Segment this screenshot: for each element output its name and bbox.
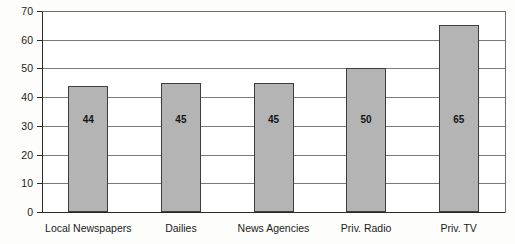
bar-value-label: 45 — [254, 115, 294, 125]
bar-value-label: 65 — [439, 115, 479, 125]
y-axis-tick-label: 10 — [0, 178, 33, 189]
x-axis-category-label: Priv. Radio — [320, 223, 413, 234]
gridline — [43, 68, 506, 69]
bar — [254, 83, 294, 212]
x-axis-category-label: News Agencies — [227, 223, 320, 234]
y-axis-tick-label: 70 — [0, 6, 33, 17]
bar-value-label: 45 — [161, 115, 201, 125]
bar — [68, 86, 108, 212]
gridline — [43, 11, 506, 12]
y-axis-tick-label: 30 — [0, 121, 33, 132]
y-axis-tick-label: 60 — [0, 35, 33, 46]
y-axis-tick-label: 40 — [0, 92, 33, 103]
y-axis-tick-label: 20 — [0, 150, 33, 161]
gridline — [43, 40, 506, 41]
y-axis-tick-label: 0 — [0, 207, 33, 218]
bar — [161, 83, 201, 212]
bar-chart-screenshot: 010203040506070 4445455065 Local Newspap… — [0, 0, 515, 244]
x-axis-category-label: Local Newspapers — [42, 223, 135, 234]
bar-value-label: 44 — [68, 115, 108, 125]
bar — [346, 68, 386, 212]
y-axis-tick-label: 50 — [0, 63, 33, 74]
bar-value-label: 50 — [346, 115, 386, 125]
x-axis-category-label: Priv. TV — [412, 223, 505, 234]
x-axis-category-label: Dailies — [135, 223, 228, 234]
